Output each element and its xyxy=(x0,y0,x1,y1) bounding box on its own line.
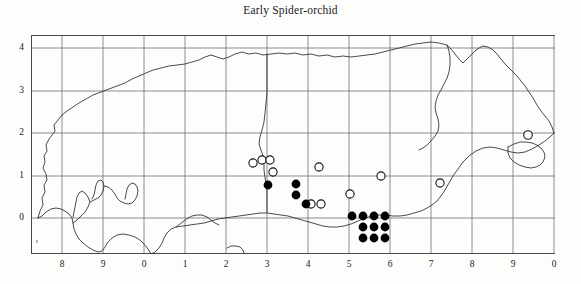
open-record-marker xyxy=(524,131,533,140)
filled-record-marker xyxy=(370,223,379,232)
open-record-marker xyxy=(377,172,385,180)
filled-record-marker xyxy=(292,180,301,189)
y-axis-tick-label: 4 xyxy=(10,42,24,52)
x-axis-tick-label: 1 xyxy=(178,259,192,269)
coastline-path-severn xyxy=(176,215,219,227)
plot-area xyxy=(31,35,555,254)
x-axis-tick-label: 6 xyxy=(383,259,397,269)
open-record-marker xyxy=(269,168,277,176)
coastline-path-exe-estuary xyxy=(104,183,138,204)
filled-record-marker xyxy=(370,234,379,243)
x-axis-tick-label: 8 xyxy=(465,259,479,269)
x-axis-tick-label: 5 xyxy=(342,259,356,269)
x-axis-tick-label: 9 xyxy=(506,259,520,269)
filled-record-marker xyxy=(381,223,390,232)
coastline-path-kent xyxy=(508,142,545,168)
filled-record-marker xyxy=(359,212,368,221)
filled-record-marker xyxy=(348,212,357,221)
grid-lines xyxy=(31,35,555,254)
coastline-path-essex-coast xyxy=(419,45,450,150)
open-record-marker xyxy=(315,163,323,171)
open-record-marker xyxy=(436,179,444,187)
filled-record-marker xyxy=(381,234,390,243)
filled-record-marker xyxy=(370,212,379,221)
x-axis-tick-label: 9 xyxy=(96,259,110,269)
filled-record-marker xyxy=(359,223,368,232)
coastline-outline xyxy=(38,42,554,254)
x-axis-tick-label: 0 xyxy=(547,259,561,269)
y-axis-tick-label: 0 xyxy=(10,212,24,222)
y-axis-tick-label: 3 xyxy=(10,85,24,95)
filled-record-marker xyxy=(302,200,311,209)
open-record-marker xyxy=(258,156,266,164)
x-axis-tick-label: 2 xyxy=(219,259,233,269)
coastline-path-cornwall xyxy=(38,208,151,254)
coastline-path-isle-wight xyxy=(227,246,244,253)
filled-record-marker xyxy=(292,191,301,200)
x-axis-tick-label: 0 xyxy=(137,259,151,269)
plot-svg xyxy=(31,35,555,254)
filled-record-marker xyxy=(264,181,273,190)
open-record-markers xyxy=(249,131,532,208)
open-record-marker xyxy=(317,200,325,208)
filled-record-marker xyxy=(359,234,368,243)
open-record-marker xyxy=(346,190,354,198)
filled-record-markers xyxy=(264,180,390,243)
coastline-path-plymouth-sound xyxy=(90,180,104,202)
x-axis-tick-label: 8 xyxy=(55,259,69,269)
y-axis-tick-label: 2 xyxy=(10,127,24,137)
open-record-marker xyxy=(249,159,257,167)
open-record-marker xyxy=(266,156,274,164)
distribution-map-figure: Early Spider-orchid xyxy=(0,0,581,284)
x-axis-tick-label: 3 xyxy=(260,259,274,269)
y-axis-tick-label: 1 xyxy=(10,170,24,180)
x-axis-tick-label: 7 xyxy=(424,259,438,269)
x-axis-tick-label: 4 xyxy=(301,259,315,269)
page-title: Early Spider-orchid xyxy=(0,4,581,16)
filled-record-marker xyxy=(381,212,390,221)
plot-frame xyxy=(31,35,555,254)
scan-artifact-speck xyxy=(36,240,38,243)
